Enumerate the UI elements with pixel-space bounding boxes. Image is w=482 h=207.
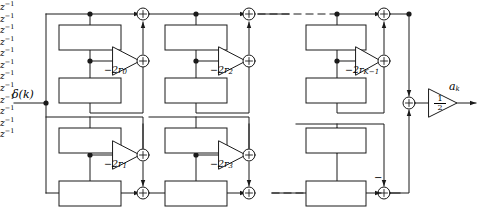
input-label: δ(k) [12, 88, 34, 101]
section-2-mid-tap-dot [193, 58, 198, 63]
section-0-coefficient-label: −2r0 [104, 64, 127, 76]
section-k-1-mid-tap-dot [334, 58, 339, 63]
section-2-delay-2 [165, 78, 227, 103]
figure-canvas: δ(k) ak 1 2 z−1 z−1 z−1 z−1 z−1 z−1 z−1 … [0, 0, 482, 207]
section-1-delay-1 [59, 128, 121, 153]
section-2-delay-1 [165, 25, 227, 50]
section-3-delay-2 [165, 181, 227, 206]
section-last-delay-2 [306, 181, 366, 206]
section-1-delay-2 [59, 181, 121, 206]
output-gain-label: 1 2 [434, 95, 446, 112]
section-k-1-delay-1 [306, 25, 366, 50]
output-label-subscript: k [456, 85, 460, 93]
section-k-1-coefficient-label: −2rK−1 [345, 64, 379, 76]
section-0-mid-tap-dot [87, 58, 92, 63]
section-2-top-tap-dot [193, 11, 198, 16]
output-gain-denominator: 2 [434, 104, 446, 112]
final-adder-minus-sign: − [374, 172, 382, 183]
output-top-node-dot [406, 11, 411, 16]
section-last-delay-1 [306, 128, 366, 153]
section-k-1-delay-2 [306, 78, 366, 103]
section-3-delay-1 [165, 128, 227, 153]
section-0-top-tap-dot [87, 11, 92, 16]
block-diagram-svg [0, 0, 482, 207]
section-3-coefficient-label: −2r3 [210, 158, 233, 170]
section-2-coefficient-label: −2r2 [210, 64, 233, 76]
section-1-coefficient-label: −2r1 [104, 158, 127, 170]
section-0-delay-2 [59, 78, 121, 103]
section-0-delay-1 [59, 25, 121, 50]
output-label: ak [449, 80, 460, 93]
section-k-1-top-tap-dot [334, 11, 339, 16]
